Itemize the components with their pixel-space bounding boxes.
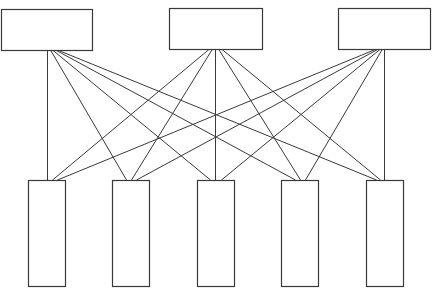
network-diagram [0,0,433,292]
top-node-t1 [2,10,93,51]
bottom-node-b2 [113,181,150,287]
bottom-node-b1 [29,181,66,287]
top-node-t2 [170,9,263,50]
bottom-node-b5 [367,181,404,287]
bottom-node-b3 [198,181,235,287]
edges-group [48,49,385,180]
edge-t3-b2 [137,49,379,180]
edge-t3-b4 [306,49,383,180]
edge-t1-b2 [51,50,127,180]
top-node-t3 [339,9,431,50]
bottom-node-b4 [282,181,319,287]
